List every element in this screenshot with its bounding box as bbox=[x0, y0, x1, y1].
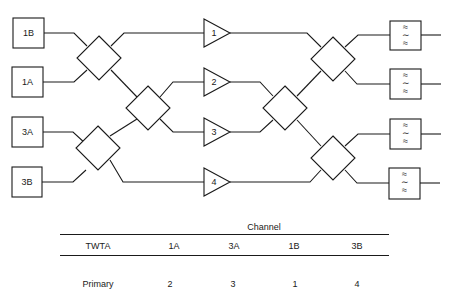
twta-1: 1 bbox=[204, 19, 230, 47]
row-header-label: TWTA bbox=[86, 241, 111, 251]
filter-icon: ≈ bbox=[402, 185, 407, 195]
column-header: 1A bbox=[168, 241, 179, 251]
input-port-1b: 1B bbox=[13, 18, 44, 48]
output-filter-3: ≈ ∼ ≈ bbox=[390, 119, 421, 149]
input-label: 3B bbox=[21, 177, 32, 187]
input-hybrid-bottom bbox=[76, 126, 120, 170]
table-cell: 1 bbox=[292, 279, 297, 289]
column-header: 1B bbox=[288, 241, 299, 251]
output-filter-4: ≈ ∼ ≈ bbox=[389, 168, 420, 199]
table-cell: 4 bbox=[354, 279, 359, 289]
table-cell: 2 bbox=[167, 279, 172, 289]
twta-2: 2 bbox=[204, 68, 230, 96]
table-cell: 3 bbox=[230, 279, 235, 289]
column-header: 3A bbox=[228, 241, 239, 251]
twta-label: 1 bbox=[211, 28, 216, 38]
switch-matrix-diagram: 1B 1A 3A 3B 1 2 3 bbox=[0, 0, 452, 220]
filter-icon: ≈ bbox=[403, 86, 408, 96]
row-label: Primary bbox=[83, 279, 114, 289]
output-wires bbox=[420, 35, 441, 183]
filter-icon: ≈ bbox=[403, 136, 408, 146]
filter-icon: ≈ bbox=[403, 38, 408, 48]
input-label: 1B bbox=[23, 28, 34, 38]
channel-group-header: Channel bbox=[247, 222, 281, 232]
twta-3: 3 bbox=[204, 118, 230, 146]
input-label: 3A bbox=[22, 127, 33, 137]
input-port-3b: 3B bbox=[12, 167, 42, 197]
output-filter-2: ≈ ∼ ≈ bbox=[390, 69, 421, 99]
table-header-rule bbox=[60, 255, 389, 256]
output-filter-1: ≈ ∼ ≈ bbox=[390, 21, 421, 50]
twta-label: 2 bbox=[211, 77, 216, 87]
column-header: 3B bbox=[351, 241, 362, 251]
input-label: 1A bbox=[22, 77, 33, 87]
input-port-3a: 3A bbox=[12, 117, 43, 147]
table-top-rule bbox=[60, 234, 389, 235]
input-port-1a: 1A bbox=[12, 67, 43, 97]
twta-label: 3 bbox=[211, 127, 216, 137]
twta-label: 4 bbox=[211, 177, 216, 187]
twta-4: 4 bbox=[204, 168, 230, 196]
